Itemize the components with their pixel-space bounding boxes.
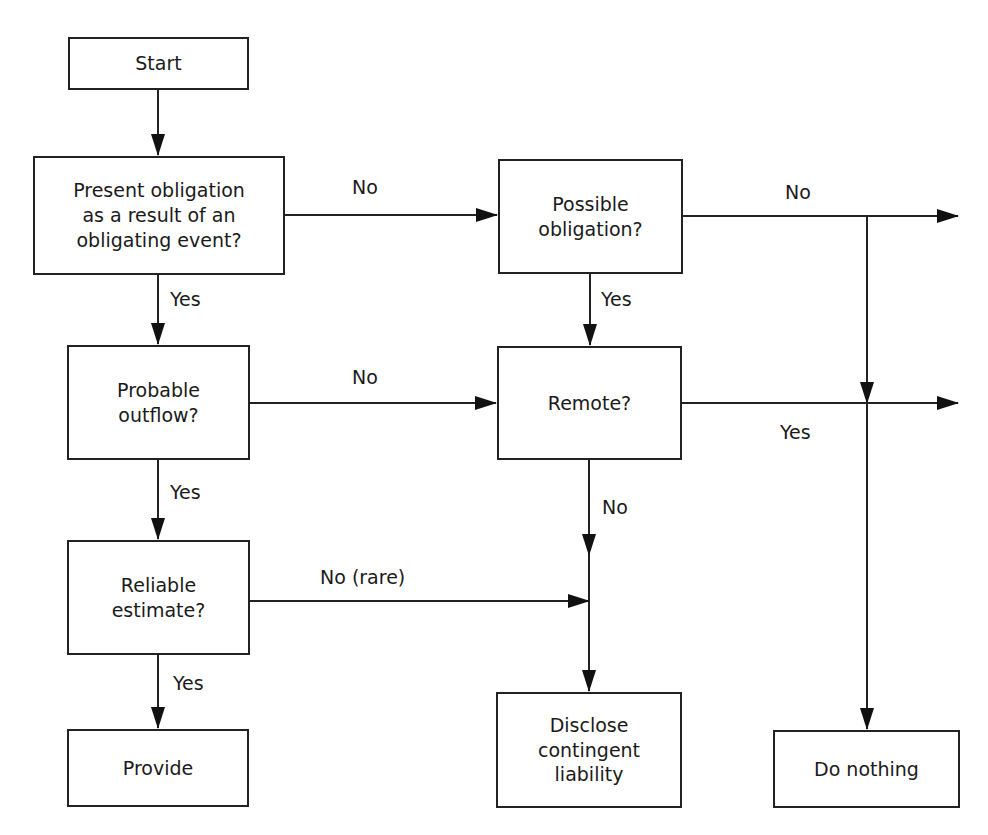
- node-possible-obligation: Possible obligation?: [498, 159, 683, 274]
- label-possible-no: No: [785, 181, 811, 203]
- label-present-yes: Yes: [170, 288, 201, 310]
- label-possible-yes: Yes: [601, 288, 632, 310]
- label-reliable-yes: Yes: [173, 672, 204, 694]
- node-present-obligation: Present obligation as a result of an obl…: [33, 156, 285, 275]
- node-do-nothing: Do nothing: [773, 730, 960, 808]
- node-reliable-estimate: Reliable estimate?: [67, 540, 250, 655]
- node-remote: Remote?: [497, 346, 682, 460]
- label-present-no: No: [352, 176, 378, 198]
- label-remote-no: No: [602, 496, 628, 518]
- node-probable-outflow: Probable outflow?: [67, 345, 250, 460]
- label-reliable-no-rare: No (rare): [320, 566, 405, 588]
- label-remote-yes: Yes: [780, 421, 811, 443]
- node-provide: Provide: [67, 729, 249, 807]
- label-probable-no: No: [352, 366, 378, 388]
- label-probable-yes: Yes: [170, 481, 201, 503]
- node-start: Start: [68, 37, 249, 90]
- node-disclose-contingent-liability: Disclose contingent liability: [496, 692, 682, 808]
